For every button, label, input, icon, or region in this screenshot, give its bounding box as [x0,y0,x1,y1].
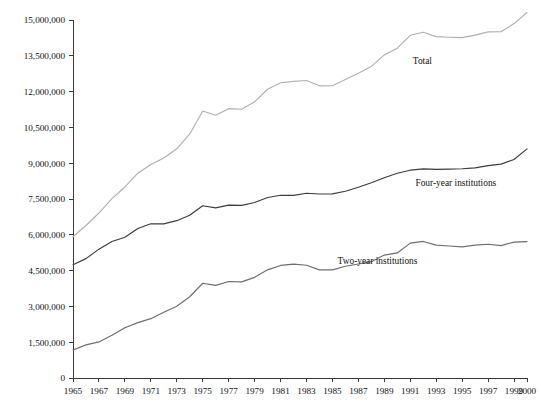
series-inline-labels: TotalFour-year institutionsTwo-year inst… [338,56,497,266]
x-tick-label: 1965 [64,386,83,396]
x-tick-label: 1997 [479,386,498,396]
y-tick-label: 4,500,000 [28,266,65,276]
y-tick-label: 13,500,000 [24,51,66,61]
y-tick-label: 0 [60,373,65,383]
series-line-total [73,13,527,237]
series-label-two-year-institutions: Two-year institutions [338,256,418,266]
series-line-two-year-institutions [73,241,527,350]
x-axis-tick-labels: 1965196719691971197319751977197919811983… [64,386,537,396]
series-label-four-year-institutions: Four-year institutions [415,178,496,188]
x-tick-label: 1983 [297,386,316,396]
x-tick-label: 1967 [90,386,109,396]
x-tick-label: 1995 [453,386,472,396]
y-tick-label: 10,500,000 [24,123,66,133]
y-tick-label: 7,500,000 [28,194,65,204]
x-tick-label: 1977 [219,386,238,396]
x-tick-label: 1979 [245,386,264,396]
x-tick-label: 1989 [375,386,394,396]
x-tick-label: 1993 [427,386,446,396]
x-tick-label: 1991 [401,386,420,396]
x-tick-label: 1981 [271,386,290,396]
x-tick-label: 1971 [142,386,161,396]
y-tick-label: 3,000,000 [28,302,65,312]
y-axis-tick-labels: 01,500,0003,000,0004,500,0006,000,0007,5… [24,15,66,383]
enrollment-line-chart: 01,500,0003,000,0004,500,0006,000,0007,5… [0,0,541,415]
y-tick-label: 12,000,000 [24,87,66,97]
chart-container: 01,500,0003,000,0004,500,0006,000,0007,5… [0,0,541,415]
x-tick-label: 1973 [168,386,187,396]
y-axis-tick-marks [69,20,73,378]
x-tick-label: 1985 [323,386,342,396]
y-tick-label: 15,000,000 [24,15,66,25]
x-tick-label: 1969 [116,386,135,396]
y-tick-label: 1,500,000 [28,338,65,348]
x-tick-label: 1975 [194,386,213,396]
x-tick-label: 2000 [518,386,537,396]
x-axis-tick-marks [73,378,527,382]
x-tick-label: 1987 [349,386,368,396]
y-tick-label: 9,000,000 [28,159,65,169]
series-line-four-year-institutions [73,149,527,265]
series-label-total: Total [413,56,433,66]
y-tick-label: 6,000,000 [28,230,65,240]
